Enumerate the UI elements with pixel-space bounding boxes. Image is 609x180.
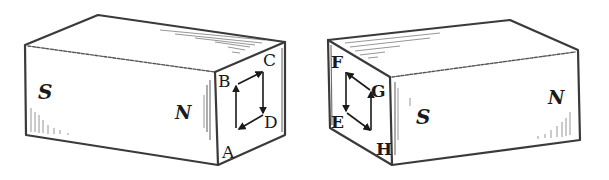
left-magnet-pole-s: S (38, 80, 52, 104)
label-corner-e: E (331, 112, 344, 132)
right-magnet: F G E H S N (328, 20, 580, 165)
label-corner-b: B (218, 71, 231, 91)
label-corner-f: F (331, 52, 343, 72)
label-corner-d: D (264, 112, 278, 132)
right-magnet-pole-s: S (416, 105, 430, 129)
label-corner-c: C (263, 50, 276, 70)
left-magnet-pole-n: N (174, 102, 193, 123)
two-bar-magnets-figure: S N B C D A (0, 0, 609, 180)
label-corner-a: A (221, 142, 235, 162)
label-corner-g: G (371, 81, 386, 101)
left-magnet: S N B C D A (25, 15, 285, 165)
label-corner-h: H (376, 139, 392, 159)
right-magnet-pole-n: N (547, 87, 566, 108)
